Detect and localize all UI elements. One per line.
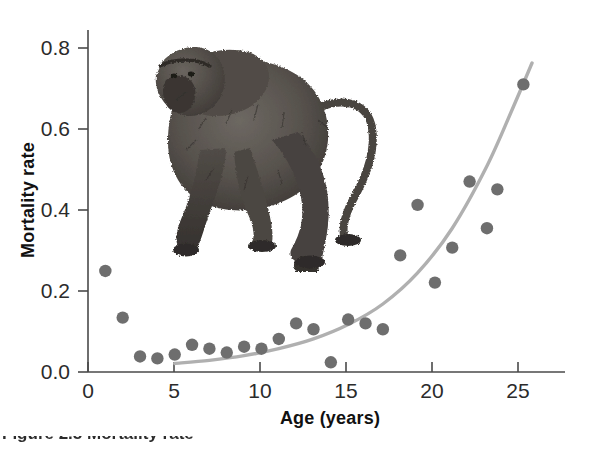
x-tick-label-0: 0 [82,379,94,402]
data-point [394,249,406,261]
data-point [481,222,493,234]
data-point [429,276,441,288]
data-point [359,317,371,329]
data-point [186,339,198,351]
data-point [99,265,111,277]
figure-caption: Figure 2.5 Mortality rate [2,436,194,444]
x-tick-label-2: 10 [248,379,271,402]
data-point [221,346,233,358]
data-point [491,183,503,195]
data-point [203,342,215,354]
data-point [169,348,181,360]
y-tick-label-1: 0.2 [41,279,70,302]
y-tick-label-3: 0.6 [41,117,70,140]
x-tick-label-5: 25 [506,379,529,402]
data-point [290,317,302,329]
data-point [517,78,529,90]
x-axis-title: Age (years) [280,408,380,428]
data-point [446,241,458,253]
y-axis-title: Mortality rate [18,142,38,258]
data-point [116,311,128,323]
x-tick-label-4: 20 [420,379,443,402]
data-point [238,341,250,353]
data-point [307,323,319,335]
data-point [273,333,285,345]
data-point [134,350,146,362]
data-point [463,175,475,187]
data-point [377,323,389,335]
figure-root: 0.0 0.2 0.4 0.6 0.8 0 5 10 15 20 25 Age … [0,0,600,450]
x-tick-label-3: 15 [334,379,357,402]
x-tick-label-1: 5 [168,379,180,402]
mortality-rate-scatter-chart: 0.0 0.2 0.4 0.6 0.8 0 5 10 15 20 25 Age … [0,0,600,450]
data-point [255,342,267,354]
baboon-illustration [156,47,373,272]
y-tick-label-0: 0.0 [41,360,70,383]
data-point [411,199,423,211]
y-tick-label-4: 0.8 [41,36,70,59]
x-axis-ticks [88,362,518,372]
data-point [342,313,354,325]
figure-caption-strip: Figure 2.5 Mortality rate [0,436,600,450]
data-point [151,352,163,364]
data-point [325,356,337,368]
y-tick-label-2: 0.4 [41,198,71,221]
y-axis-ticks [78,48,88,372]
